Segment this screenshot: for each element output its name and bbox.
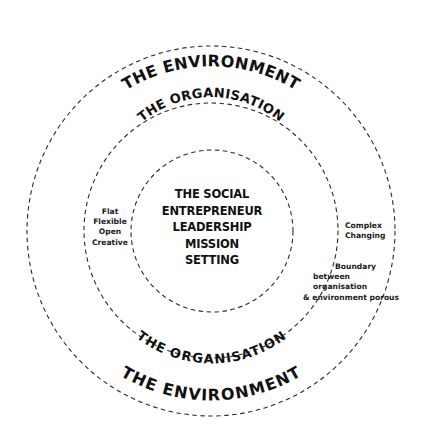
trait: Creative [82,238,138,248]
environment-label-bottom: THE ENVIRONMENT [118,362,304,404]
trait: Open [82,227,138,237]
environment-traits-note: Complex Changing [345,221,385,241]
boundary-note: Boundary between organisation & environm… [303,262,399,303]
organisation-label-top: THE ORGANISATION [135,85,288,124]
core-line: LEADERSHIP [140,219,284,236]
boundary-line: between [303,272,399,282]
core-line: THE SOCIAL [140,186,284,203]
boundary-line: organisation [303,282,399,292]
organisation-traits-note: Flat Flexible Open Creative [82,207,138,248]
trait: Complex [345,221,385,231]
organisation-label-bottom: THE ORGANISATION [135,328,289,366]
core-line: SETTING [140,252,284,269]
core-label: THE SOCIAL ENTREPRENEUR LEADERSHIP MISSI… [140,186,284,269]
trait: Flexible [82,217,138,227]
trait: Flat [82,207,138,217]
core-line: MISSION [140,236,284,253]
trait: Changing [345,231,385,241]
boundary-line: Boundary [303,262,399,272]
core-line: ENTREPRENEUR [140,203,284,220]
boundary-line: & environment porous [303,293,399,303]
